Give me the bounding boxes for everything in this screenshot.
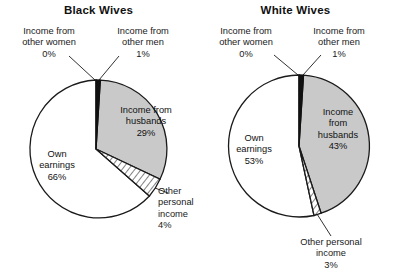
label-income-from-other-women: Income from other women 0% — [203, 26, 289, 60]
label-income-from-husbands: Income from husbands 43% — [307, 107, 369, 153]
pie-chart-white-wives: White Wives Income from other women 0% I… — [197, 0, 394, 274]
label-income-from-other-men: Income from other men 1% — [295, 26, 383, 60]
pie-chart-black-wives: Black Wives Income from other women 0% I… — [0, 0, 197, 274]
label-income-from-husbands: Income from husbands 29% — [106, 105, 186, 139]
label-own-earnings: Own earnings 66% — [28, 149, 86, 183]
leader-line-other-personal-income — [317, 214, 331, 236]
label-own-earnings: Own earnings 53% — [225, 133, 283, 167]
label-other-personal-income: Other personal income 3% — [276, 237, 386, 271]
label-income-from-other-women: Income from other women 0% — [6, 26, 92, 60]
label-income-from-other-men: Income from other men 1% — [100, 26, 186, 60]
